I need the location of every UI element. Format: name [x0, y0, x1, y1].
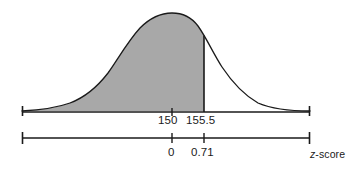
- shaded-area-under-curve: [22, 13, 204, 111]
- z-score-label-cutoff: 0.71: [191, 146, 214, 158]
- raw-score-label-cutoff: 155.5: [186, 114, 215, 126]
- normal-distribution-figure: 150 155.5 0 0.71 z-score: [0, 0, 361, 172]
- z-score-axis-title-text: -score: [315, 148, 345, 160]
- z-score-label-zero: 0: [168, 146, 175, 158]
- raw-score-label-mean: 150: [158, 114, 178, 126]
- z-score-axis-title: z-score: [310, 148, 345, 160]
- distribution-plot: [0, 0, 361, 172]
